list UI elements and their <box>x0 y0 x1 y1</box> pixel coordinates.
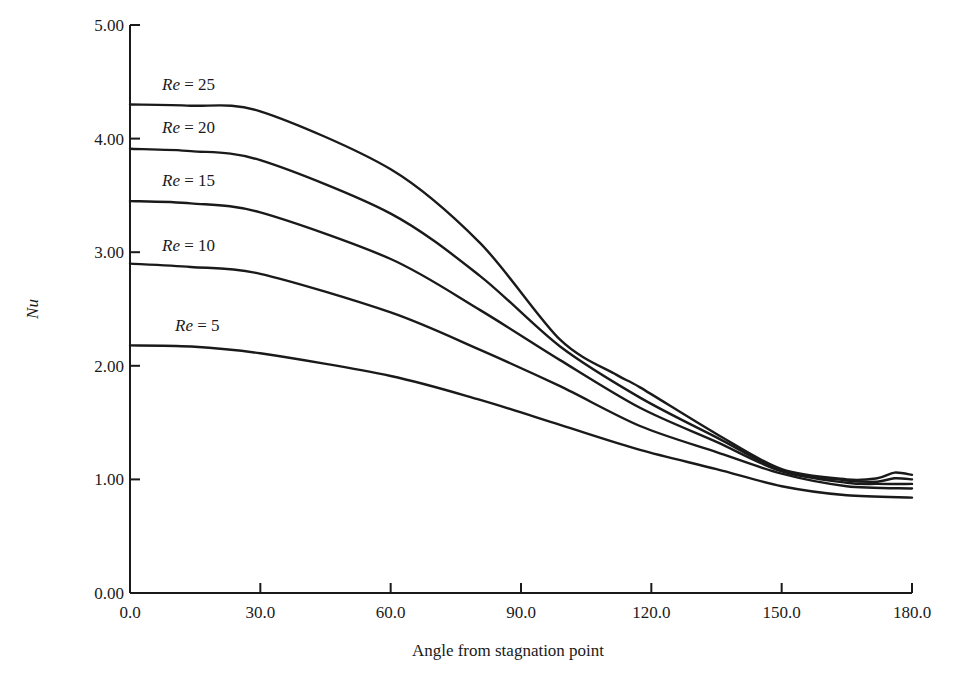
series-label-re: Re <box>174 316 193 335</box>
series-label: Re = 10 <box>161 236 215 255</box>
series-label-value: = 20 <box>180 118 215 137</box>
series-line-15 <box>130 201 912 484</box>
x-axis-title: Angle from stagnation point <box>412 641 604 660</box>
x-tick-label: 150.0 <box>763 603 801 622</box>
y-tick-label: 4.00 <box>94 130 124 149</box>
x-tick-label: 180.0 <box>893 603 931 622</box>
series-line-25 <box>130 105 912 480</box>
series-label-re: Re <box>161 236 180 255</box>
x-axis: 0.030.060.090.0120.0150.0180.0 <box>119 583 931 622</box>
series-label-value: = 15 <box>180 171 215 190</box>
series-label: Re = 25 <box>161 75 215 94</box>
series-label: Re = 15 <box>161 171 215 190</box>
y-tick-label: 5.00 <box>94 16 124 35</box>
series-label: Re = 20 <box>161 118 215 137</box>
nusselt-vs-angle-chart: 0.001.002.003.004.005.00 0.030.060.090.0… <box>0 0 958 678</box>
x-tick-label: 60.0 <box>376 603 406 622</box>
x-tick-label: 30.0 <box>245 603 275 622</box>
series-label-value: = 5 <box>193 316 220 335</box>
y-tick-label: 2.00 <box>94 357 124 376</box>
series-label-re: Re <box>161 171 180 190</box>
series-label-value: = 25 <box>180 75 215 94</box>
series-label-re: Re <box>161 118 180 137</box>
series-label: Re = 5 <box>174 316 220 335</box>
y-tick-label: 3.00 <box>94 243 124 262</box>
x-tick-label: 120.0 <box>632 603 670 622</box>
series-lines <box>130 105 912 498</box>
series-label-value: = 10 <box>180 236 215 255</box>
y-tick-label: 1.00 <box>94 470 124 489</box>
series-line-10 <box>130 264 912 489</box>
y-axis-title: Nu <box>23 299 42 320</box>
series-line-20 <box>130 149 912 482</box>
x-tick-label: 90.0 <box>506 603 536 622</box>
series-label-re: Re <box>161 75 180 94</box>
x-tick-label: 0.0 <box>119 603 140 622</box>
y-tick-label: 0.00 <box>94 584 124 603</box>
